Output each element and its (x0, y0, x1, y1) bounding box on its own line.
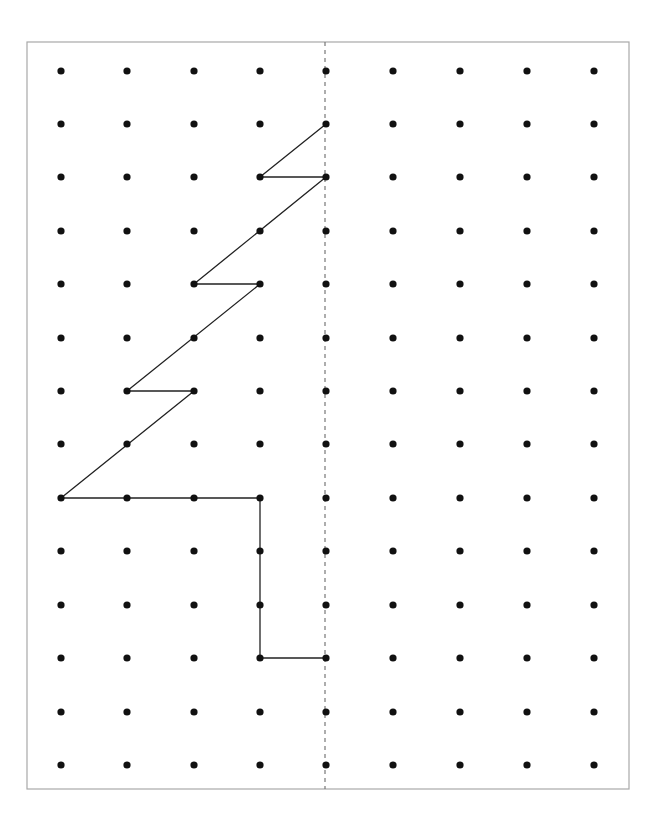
grid-dot (590, 440, 597, 447)
grid-dot (389, 761, 396, 768)
grid-dot (57, 227, 64, 234)
dot-grid-diagram (0, 0, 659, 823)
grid-dot (57, 334, 64, 341)
grid-dot (389, 547, 396, 554)
grid-dot (523, 280, 530, 287)
grid-dot (389, 601, 396, 608)
grid-dot (123, 67, 130, 74)
grid-dot (456, 67, 463, 74)
grid-dot (123, 494, 130, 501)
dot-grid (57, 67, 597, 768)
grid-dot (123, 120, 130, 127)
grid-dot (57, 547, 64, 554)
grid-dot (57, 601, 64, 608)
grid-dot (523, 654, 530, 661)
grid-dot (190, 601, 197, 608)
grid-dot (456, 654, 463, 661)
grid-dot (389, 334, 396, 341)
grid-dot (322, 120, 329, 127)
grid-dot (256, 280, 263, 287)
grid-dot (123, 280, 130, 287)
grid-dot (322, 334, 329, 341)
grid-dot (256, 173, 263, 180)
grid-dot (322, 67, 329, 74)
grid-dot (123, 173, 130, 180)
grid-dot (57, 280, 64, 287)
grid-dot (389, 440, 396, 447)
grid-dot (256, 67, 263, 74)
grid-dot (590, 387, 597, 394)
grid-dot (57, 654, 64, 661)
grid-dot (523, 120, 530, 127)
grid-dot (523, 761, 530, 768)
grid-dot (523, 334, 530, 341)
grid-dot (590, 547, 597, 554)
grid-dot (123, 440, 130, 447)
grid-dot (389, 494, 396, 501)
grid-dot (256, 494, 263, 501)
grid-dot (57, 120, 64, 127)
grid-dot (322, 494, 329, 501)
grid-dot (523, 173, 530, 180)
grid-dot (190, 334, 197, 341)
grid-dot (190, 387, 197, 394)
grid-dot (322, 547, 329, 554)
grid-dot (123, 761, 130, 768)
grid-dot (256, 761, 263, 768)
grid-dot (590, 761, 597, 768)
grid-dot (123, 708, 130, 715)
grid-dot (456, 708, 463, 715)
grid-dot (523, 440, 530, 447)
grid-dot (190, 280, 197, 287)
diagram-frame (27, 42, 629, 789)
grid-dot (123, 601, 130, 608)
grid-dot (190, 227, 197, 234)
grid-dot (256, 387, 263, 394)
grid-dot (57, 67, 64, 74)
grid-dot (57, 387, 64, 394)
grid-dot (590, 601, 597, 608)
grid-dot (590, 67, 597, 74)
grid-dot (322, 761, 329, 768)
grid-dot (456, 227, 463, 234)
grid-dot (523, 494, 530, 501)
grid-dot (256, 120, 263, 127)
grid-dot (322, 654, 329, 661)
grid-dot (322, 440, 329, 447)
grid-dot (190, 440, 197, 447)
grid-dot (256, 440, 263, 447)
grid-dot (322, 227, 329, 234)
grid-dot (322, 173, 329, 180)
grid-dot (190, 173, 197, 180)
grid-dot (190, 67, 197, 74)
grid-dot (256, 654, 263, 661)
grid-dot (190, 708, 197, 715)
grid-dot (389, 227, 396, 234)
grid-dot (523, 547, 530, 554)
grid-dot (256, 601, 263, 608)
grid-dot (456, 601, 463, 608)
grid-dot (256, 708, 263, 715)
grid-dot (190, 547, 197, 554)
grid-dot (523, 67, 530, 74)
grid-dot (523, 708, 530, 715)
grid-dot (256, 547, 263, 554)
grid-dot (590, 654, 597, 661)
grid-dot (322, 601, 329, 608)
grid-dot (456, 494, 463, 501)
grid-dot (590, 708, 597, 715)
grid-dot (389, 387, 396, 394)
grid-dot (322, 280, 329, 287)
grid-dot (190, 654, 197, 661)
grid-dot (389, 173, 396, 180)
grid-dot (456, 547, 463, 554)
grid-dot (456, 440, 463, 447)
grid-dot (190, 120, 197, 127)
grid-dot (322, 387, 329, 394)
grid-dot (57, 761, 64, 768)
grid-dot (389, 120, 396, 127)
grid-dot (523, 227, 530, 234)
grid-dot (57, 440, 64, 447)
grid-dot (389, 280, 396, 287)
grid-dot (456, 280, 463, 287)
